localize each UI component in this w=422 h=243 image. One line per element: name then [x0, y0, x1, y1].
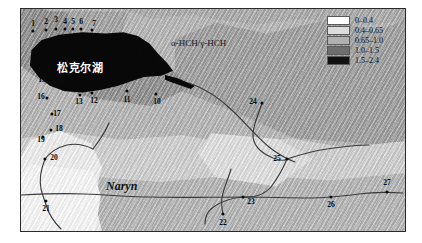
river-branch-22: [222, 169, 232, 214]
sampling-point-label-23: 23: [247, 198, 255, 206]
sampling-point-label-25: 25: [273, 155, 281, 163]
legend-swatch-4: [327, 46, 350, 56]
sampling-point-label-3: 3: [54, 16, 58, 24]
legend-row-5: 1.5–2.4: [327, 56, 405, 65]
sampling-point-label-1: 1: [31, 20, 35, 28]
legend-swatch-5: [327, 56, 350, 66]
sampling-point-label-26: 26: [327, 201, 335, 209]
sampling-point-label-8: 8: [139, 50, 143, 58]
legend-swatch-2: [327, 26, 350, 36]
legend-swatch-1: [327, 16, 350, 26]
sampling-point-label-21: 21: [42, 205, 50, 213]
map-figure: 松克尔湖 12345678910111213141516171819202122…: [0, 0, 422, 243]
legend-swatch-3: [327, 36, 350, 46]
river-branch-north-small: [93, 123, 109, 149]
sampling-point-label-17: 17: [53, 110, 61, 118]
sampling-point-label-18: 18: [55, 125, 63, 133]
legend-row-1: 0–0.4: [327, 16, 405, 25]
river-branch-20-south: [40, 159, 46, 205]
legend-row-2: 0.4–0.65: [327, 26, 405, 35]
sampling-point-label-10: 10: [153, 98, 161, 106]
legend-label-1: 0–0.4: [355, 17, 373, 25]
legend-label-4: 1.0–1.5: [355, 47, 379, 55]
legend-row-3: 0.65–1.0: [327, 36, 405, 45]
naryn-river-label: Naryn: [106, 179, 137, 194]
legend: 0–0.40.4–0.650.65–1.01.0–1.51.5–2.4: [324, 13, 406, 69]
map-canvas[interactable]: 松克尔湖 12345678910111213141516171819202122…: [20, 8, 406, 232]
legend-label-5: 1.5–2.4: [355, 57, 379, 65]
legend-label-2: 0.4–0.65: [355, 27, 383, 35]
sampling-point-label-22: 22: [219, 219, 227, 227]
ratio-title-label: α-HCH/γ-HCH: [171, 38, 226, 48]
sampling-point-label-20: 20: [50, 154, 58, 162]
river-branch-east: [287, 145, 369, 159]
river-naryn-main: [21, 194, 243, 198]
sampling-point-label-15: 15: [38, 76, 46, 84]
sampling-point-label-16: 16: [37, 93, 45, 101]
sampling-point-label-24: 24: [249, 98, 257, 106]
sampling-point-label-11: 11: [123, 96, 130, 104]
sampling-point-label-27: 27: [383, 179, 391, 187]
river-branch-24: [253, 103, 287, 160]
legend-label-3: 0.65–1.0: [355, 37, 383, 45]
sampling-point-label-12: 12: [90, 97, 98, 105]
sampling-point-label-14: 14: [57, 78, 65, 86]
sampling-point-label-13: 13: [75, 98, 83, 106]
sampling-point-label-19: 19: [37, 136, 45, 144]
sampling-point-label-9: 9: [156, 55, 160, 63]
sampling-point-label-7: 7: [92, 20, 96, 28]
sampling-point-label-6: 6: [79, 18, 83, 26]
sampling-point-label-5: 5: [71, 18, 75, 26]
river-main-upper: [189, 83, 295, 162]
legend-row-4: 1.0–1.5: [327, 46, 405, 55]
sampling-point-label-4: 4: [63, 18, 67, 26]
sampling-point-label-2: 2: [44, 18, 48, 26]
river-naryn-east: [243, 192, 403, 198]
river-branch-25-to-23: [243, 159, 287, 197]
